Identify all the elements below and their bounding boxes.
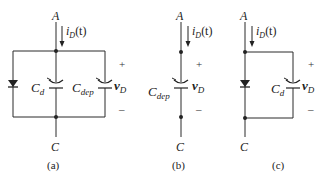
current-label: iD(t)	[66, 24, 86, 40]
circuit-figure: A iD(t) Cd	[0, 0, 328, 178]
node-c-label: C	[240, 140, 249, 154]
voltage-label: vD	[114, 78, 127, 95]
junction-dot	[179, 50, 183, 54]
diode-icon	[240, 80, 250, 87]
cap-cdep-label: Cdep	[148, 84, 170, 101]
current-arrow-icon	[186, 26, 191, 47]
minus-sign: –	[118, 103, 125, 115]
capacitor-cd-icon	[47, 78, 63, 88]
node-a-label: A	[175, 9, 184, 23]
node-a-label: A	[239, 9, 248, 23]
current-arrow-icon	[250, 26, 255, 47]
cap-cd-label: Cd	[31, 80, 45, 97]
minus-sign: –	[195, 103, 202, 115]
capacitor-cdep-icon	[96, 78, 112, 88]
current-label: iD(t)	[256, 24, 276, 40]
voltage-label: vD	[192, 78, 205, 95]
current-label: iD(t)	[192, 24, 212, 40]
plus-sign: +	[196, 58, 202, 70]
caption-b: (b)	[172, 159, 185, 172]
panel-c: A iD(t) Cd vD + – C (c)	[239, 9, 315, 172]
diode-icon	[8, 80, 18, 87]
node-a-label: A	[51, 9, 60, 23]
junction-dot	[243, 116, 247, 120]
capacitor-cd-icon	[284, 78, 300, 88]
voltage-label: vD	[302, 78, 315, 95]
node-c-label: C	[176, 140, 185, 154]
plus-sign: +	[119, 58, 125, 70]
caption-a: (a)	[47, 159, 60, 172]
current-arrow-icon	[60, 26, 65, 47]
node-c-label: C	[51, 140, 60, 154]
caption-c: (c)	[272, 159, 285, 172]
cap-cdep-label: Cdep	[72, 80, 94, 97]
panel-b: A iD(t) Cdep vD + – C (b)	[148, 9, 212, 172]
panel-a: A iD(t) Cd	[8, 9, 127, 172]
plus-sign: +	[308, 58, 314, 70]
junction-dot	[243, 50, 247, 54]
junction-dot	[179, 115, 183, 119]
cap-cd-label: Cd	[271, 81, 285, 98]
capacitor-cdep-icon	[172, 78, 188, 88]
minus-sign: –	[307, 103, 314, 115]
